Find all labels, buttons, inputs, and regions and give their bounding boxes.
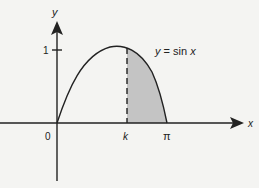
diagram-svg: y 1 0 k π x y = sin x bbox=[0, 0, 259, 188]
x-axis-label: x bbox=[247, 118, 254, 129]
y-tick-label: 1 bbox=[43, 45, 49, 56]
k-label: k bbox=[123, 131, 129, 142]
y-axis-label: y bbox=[51, 6, 59, 18]
shaded-area bbox=[127, 48, 167, 124]
pi-label: π bbox=[163, 130, 171, 142]
sine-area-diagram: y 1 0 k π x y = sin x bbox=[0, 0, 259, 188]
origin-label: 0 bbox=[45, 131, 51, 142]
function-label: y = sin x bbox=[154, 45, 196, 57]
